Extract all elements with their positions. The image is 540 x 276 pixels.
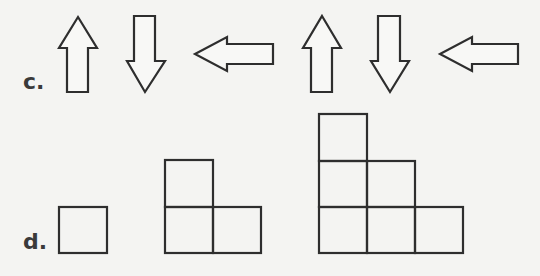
arrow-down-icon — [371, 16, 409, 92]
square — [59, 207, 107, 253]
arrow-left-icon — [195, 37, 273, 71]
staircase-2 — [165, 160, 261, 253]
square — [165, 207, 213, 253]
square — [319, 207, 367, 253]
square — [319, 114, 367, 161]
arrow-up-icon — [59, 17, 97, 92]
square — [213, 207, 261, 253]
arrow-left-icon — [440, 37, 518, 71]
square — [319, 161, 367, 207]
arrow-down-icon — [127, 16, 165, 92]
square — [367, 161, 415, 207]
arrow-up-icon — [303, 16, 341, 92]
pattern-figure — [0, 0, 540, 276]
square — [415, 207, 463, 253]
square — [165, 160, 213, 207]
arrow-row-c — [59, 16, 518, 92]
square — [367, 207, 415, 253]
staircase-1 — [59, 207, 107, 253]
staircase-3 — [319, 114, 463, 253]
